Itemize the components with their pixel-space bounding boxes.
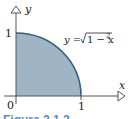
curve-equation: y = 1 − x 2 (63, 32, 114, 45)
x-axis-arrow-icon (118, 91, 125, 101)
x-axis-label: x (119, 79, 126, 92)
x-tick-label: 1 (78, 100, 85, 113)
y-axis-arrow-icon (11, 6, 21, 13)
y-axis-label: y (24, 3, 32, 16)
origin-label: 0 (7, 99, 14, 112)
y-tick-label: 1 (5, 27, 12, 40)
svg-text:y =: y = (63, 34, 81, 45)
figure-caption: Figure 2.1.2 (3, 113, 70, 119)
svg-text:2: 2 (106, 32, 110, 40)
diagram-canvas: y x 1 0 1 y = 1 − x 2 Figure 2.1.2 (0, 0, 130, 119)
